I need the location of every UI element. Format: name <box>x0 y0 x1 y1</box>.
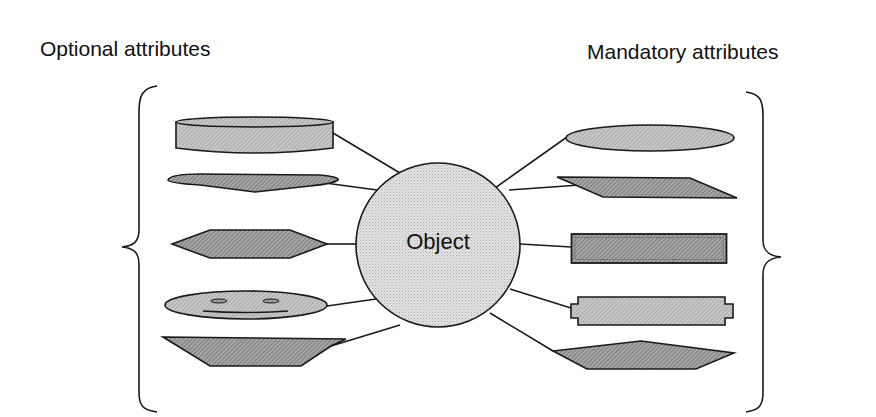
optional-attribute-trapezoid <box>163 337 346 366</box>
mandatory-attribute-parallelogram <box>557 177 737 198</box>
right-brace <box>746 92 781 412</box>
attributes-diagram: Optional attributes Mandatory attributes <box>0 0 876 417</box>
mandatory-attribute-pentagon <box>553 341 734 369</box>
smiley-right-eye-icon <box>263 299 279 303</box>
mandatory-attribute-ellipse <box>566 125 734 151</box>
optional-attribute-smiley <box>165 291 327 319</box>
optional-attribute-chevron <box>168 174 338 192</box>
smiley-left-eye-icon <box>211 299 227 303</box>
diagram-canvas <box>0 0 876 417</box>
optional-attribute-cylinder <box>176 117 333 153</box>
object-label: Object <box>388 229 488 255</box>
left-brace <box>122 86 157 412</box>
optional-attribute-hexagon <box>172 230 327 258</box>
mandatory-attribute-double-rectangle <box>572 234 727 263</box>
mandatory-attribute-notched-rectangle <box>571 297 733 325</box>
